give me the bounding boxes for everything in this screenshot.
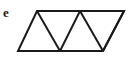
tiling-figure: e [0, 0, 140, 64]
triangle-strip-diagram [0, 0, 140, 64]
